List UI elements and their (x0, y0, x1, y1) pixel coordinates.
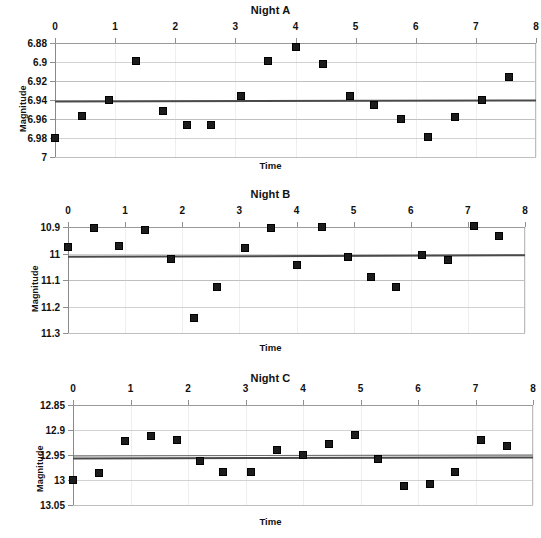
data-point (167, 255, 175, 263)
data-point (319, 60, 327, 68)
data-point (392, 283, 400, 291)
data-point (173, 436, 181, 444)
x-axis-tick-label: 7 (473, 21, 479, 32)
data-point (141, 226, 149, 234)
data-point (213, 283, 221, 291)
y-axis-tick-label: 11.2 (16, 301, 60, 312)
data-point (470, 222, 478, 230)
y-axis-tick (68, 405, 73, 406)
chart-night-a: Night A Magnitude 0123456786.886.96.926.… (0, 0, 541, 178)
x-axis-tick (303, 400, 304, 405)
x-gridline (297, 227, 298, 333)
plot-area-night-a: 0123456786.886.96.926.946.966.987 (55, 43, 536, 157)
x-gridline (536, 43, 537, 157)
x-axis-tick-label: 0 (70, 383, 76, 394)
axis-right (524, 227, 525, 333)
y-axis-tick-label: 13.05 (21, 500, 65, 511)
data-point (451, 468, 459, 476)
data-point (190, 314, 198, 322)
x-axis-tick-label: 2 (172, 21, 178, 32)
y-axis-tick-label: 10.9 (16, 222, 60, 233)
y-axis-tick-label: 12.85 (21, 400, 65, 411)
data-point (426, 480, 434, 488)
x-axis-tick (175, 38, 176, 43)
x-axis-tick (55, 38, 56, 43)
x-axis-tick (297, 222, 298, 227)
chart-title-night-c: Night C (0, 372, 541, 384)
x-axis-tick-label: 6 (415, 383, 421, 394)
x-axis-tick (73, 400, 74, 405)
x-axis-tick (361, 400, 362, 405)
y-axis-tick (50, 43, 55, 44)
y-axis-label-night-a: Magnitude (18, 85, 28, 132)
y-axis-tick (68, 505, 73, 506)
x-axis-tick (476, 400, 477, 405)
x-axis-tick-label: 3 (243, 383, 249, 394)
y-axis-tick (50, 100, 55, 101)
data-point (374, 455, 382, 463)
data-point (237, 92, 245, 100)
x-axis-tick-label: 4 (300, 383, 306, 394)
data-point (147, 432, 155, 440)
data-point (424, 133, 432, 141)
y-axis-tick-label: 12.95 (21, 450, 65, 461)
data-point (51, 134, 59, 142)
x-axis-tick (235, 38, 236, 43)
x-gridline (533, 405, 534, 505)
x-axis-tick (131, 400, 132, 405)
x-axis-tick-label: 8 (530, 383, 536, 394)
data-point (370, 101, 378, 109)
data-point (207, 121, 215, 129)
x-axis-tick (354, 222, 355, 227)
data-point (241, 244, 249, 252)
data-point (367, 273, 375, 281)
y-axis-tick-label: 13 (21, 475, 65, 486)
y-axis-tick (50, 119, 55, 120)
x-axis-tick (68, 222, 69, 227)
y-axis-tick (63, 254, 68, 255)
x-axis-tick (411, 222, 412, 227)
x-axis-tick-label: 3 (237, 205, 243, 216)
data-point (346, 92, 354, 100)
x-gridline (125, 227, 126, 333)
x-axis-tick (418, 400, 419, 405)
y-axis-tick-label: 6.94 (3, 95, 47, 106)
x-axis-tick (476, 38, 477, 43)
x-axis-tick-label: 1 (112, 21, 118, 32)
y-axis-tick (63, 280, 68, 281)
data-point (78, 112, 86, 120)
data-point (477, 436, 485, 444)
y-axis-tick-label: 6.88 (3, 38, 47, 49)
x-axis-label-night-c: Time (0, 516, 541, 527)
data-point (267, 224, 275, 232)
y-gridline (73, 505, 533, 506)
x-axis-tick-label: 2 (185, 383, 191, 394)
data-point (400, 482, 408, 490)
y-axis-tick (50, 62, 55, 63)
data-point (69, 476, 77, 484)
y-gridline (68, 333, 525, 334)
y-axis-tick-label: 6.9 (3, 57, 47, 68)
data-point (132, 57, 140, 65)
x-axis-tick (533, 400, 534, 405)
x-axis-tick-label: 8 (522, 205, 528, 216)
x-axis-tick-label: 6 (413, 21, 419, 32)
y-axis-tick (68, 430, 73, 431)
data-point (299, 451, 307, 459)
y-axis-tick-label: 11.3 (16, 328, 60, 339)
data-point (318, 223, 326, 231)
x-axis-tick-label: 5 (353, 21, 359, 32)
chart-title-night-a: Night A (0, 4, 541, 16)
axis-top (73, 405, 533, 406)
y-axis-tick-label: 11 (16, 248, 60, 259)
data-point (90, 224, 98, 232)
data-point (505, 73, 513, 81)
x-axis-label-night-a: Time (0, 160, 541, 171)
y-axis-tick-label: 11.1 (16, 275, 60, 286)
x-axis-tick-label: 7 (465, 205, 471, 216)
x-axis-tick-label: 5 (351, 205, 357, 216)
x-axis-tick (115, 38, 116, 43)
x-axis-tick-label: 4 (294, 205, 300, 216)
axis-top (68, 227, 525, 228)
y-axis-tick (68, 455, 73, 456)
